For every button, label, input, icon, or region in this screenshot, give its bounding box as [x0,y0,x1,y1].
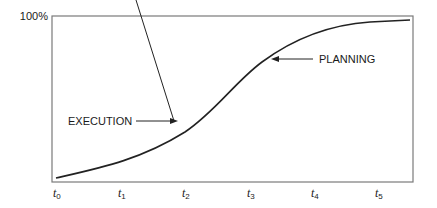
y-tick-100: 100% [20,10,48,22]
x-tick-t3: t3 [247,186,255,201]
x-tick-t2: t2 [182,186,190,201]
planning-arrowhead-icon [271,56,279,62]
planning-label: PLANNING [319,53,375,65]
progress-curve [56,20,410,178]
execution-arrow [136,0,174,121]
x-tick-t1: t1 [118,186,126,201]
x-tick-t4: t4 [311,186,319,201]
execution-label: EXECUTION [68,115,132,127]
s-curve-chart: 100% EXECUTION PLANNING t0 t1 t2 t3 t4 t… [0,0,437,208]
execution-arrowhead-icon [170,118,178,124]
plot-frame [52,16,413,182]
x-tick-t5: t5 [375,186,383,201]
x-axis-ticks: t0 t1 t2 t3 t4 t5 [53,186,383,201]
x-tick-t0: t0 [53,186,61,201]
